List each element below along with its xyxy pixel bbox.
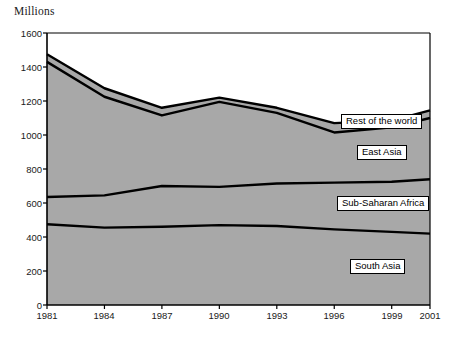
stacked-area-chart: Millions 1600 1400 1200 1000 800 600 400… — [0, 0, 454, 338]
series-label-sub-saharan-africa: Sub-Saharan Africa — [337, 196, 429, 211]
series-label-east-asia: East Asia — [357, 145, 407, 160]
plot-area — [0, 0, 454, 338]
x-tick-1981: 1981 — [36, 310, 57, 321]
y-tick-1400: 1400 — [21, 62, 42, 73]
series-label-rest-of-the-world: Rest of the world — [341, 114, 422, 129]
x-tick-1990: 1990 — [208, 310, 229, 321]
x-tick-1996: 1996 — [323, 310, 344, 321]
x-tick-1984: 1984 — [93, 310, 114, 321]
y-axis-tick-labels: 1600 1400 1200 1000 800 600 400 200 0 — [0, 0, 42, 338]
series-label-south-asia: South Asia — [350, 259, 405, 274]
y-tick-0: 0 — [37, 300, 42, 311]
x-tick-1999: 1999 — [381, 310, 402, 321]
x-tick-1987: 1987 — [151, 310, 172, 321]
x-tick-2001: 2001 — [419, 310, 440, 321]
y-tick-600: 600 — [26, 198, 42, 209]
y-tick-800: 800 — [26, 164, 42, 175]
y-tick-400: 400 — [26, 232, 42, 243]
x-tick-1993: 1993 — [266, 310, 287, 321]
y-tick-200: 200 — [26, 266, 42, 277]
y-tick-1200: 1200 — [21, 96, 42, 107]
y-tick-1000: 1000 — [21, 130, 42, 141]
y-tick-1600: 1600 — [21, 28, 42, 39]
